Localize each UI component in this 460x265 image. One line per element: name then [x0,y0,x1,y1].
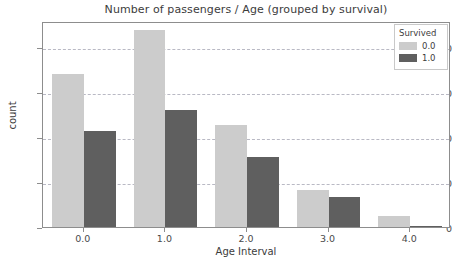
legend-entry: 1.0 [399,53,443,63]
bar [329,197,361,227]
bar [84,131,116,227]
bar [165,110,197,227]
x-tick-mark [409,228,410,232]
legend: Survived 0.01.0 [394,24,448,70]
gridline [43,49,449,50]
bar [297,190,329,227]
legend-entries: 0.01.0 [399,41,443,63]
x-tick-mark [83,228,84,232]
x-tick-mark [246,228,247,232]
bar [247,157,279,227]
bar [410,226,442,227]
x-tick-mark [164,228,165,232]
legend-entry: 0.0 [399,41,443,51]
legend-label: 1.0 [422,53,436,63]
legend-swatch-icon [399,42,417,50]
x-tick-label: 3.0 [320,233,335,244]
x-tick-label: 1.0 [157,233,172,244]
x-axis-label: Age Interval [42,246,450,257]
y-axis-label: count [7,86,18,146]
chart-title: Number of passengers / Age (grouped by s… [42,3,450,16]
legend-label: 0.0 [422,41,436,51]
x-tick-label: 0.0 [75,233,90,244]
legend-swatch-icon [399,54,417,62]
x-tick-mark [328,228,329,232]
plot-area [42,22,450,228]
gridline [43,94,449,95]
x-tick-label: 2.0 [238,233,253,244]
bar [134,30,166,227]
chart-figure: Number of passengers / Age (grouped by s… [0,0,460,265]
x-tick-label: 4.0 [402,233,417,244]
bar [378,216,410,227]
legend-title: Survived [399,28,443,38]
bar [52,74,84,227]
y-tick-mark [37,228,42,229]
bar [215,125,247,227]
